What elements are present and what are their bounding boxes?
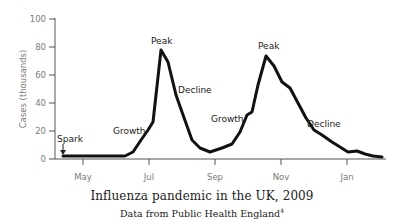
annotation-growth-1: Growth xyxy=(113,126,146,136)
y-ticks: 100 80 60 40 20 0 xyxy=(30,14,55,164)
y-axis-title: Cases (thousands) xyxy=(18,50,28,129)
ytick-label: 0 xyxy=(41,154,46,164)
annotation-decline-1: Decline xyxy=(178,85,212,95)
xtick-label: May xyxy=(74,172,92,182)
annotation-peak-2: Peak xyxy=(258,41,280,51)
xtick-label: Jan xyxy=(339,172,353,182)
subtitle-text: Data from Public Health England xyxy=(120,208,280,219)
ytick-label: 20 xyxy=(35,126,46,136)
chart-subtitle: Data from Public Health England4 xyxy=(0,207,404,219)
spark-arrow-icon xyxy=(60,144,66,155)
annotation-growth-2: Growth xyxy=(211,114,244,124)
ytick-label: 100 xyxy=(30,14,46,24)
annotation-peak-1: Peak xyxy=(151,36,173,46)
ytick-label: 60 xyxy=(35,70,46,80)
annotation-spark: Spark xyxy=(57,134,84,144)
chart-title: Influenza pandemic in the UK, 2009 xyxy=(0,189,404,203)
xtick-label: Sep xyxy=(207,172,223,182)
xtick-label: Nov xyxy=(273,172,290,182)
footnote-marker: 4 xyxy=(280,207,284,214)
line-chart: 100 80 60 40 20 0 Cases (thousands) May … xyxy=(0,0,404,190)
ytick-label: 80 xyxy=(35,42,46,52)
x-ticks: May Jul Sep Nov Jan xyxy=(74,159,353,182)
ytick-label: 40 xyxy=(35,98,46,108)
cases-line xyxy=(63,50,382,157)
annotation-decline-2: Decline xyxy=(307,119,341,129)
xtick-label: Jul xyxy=(143,172,154,182)
